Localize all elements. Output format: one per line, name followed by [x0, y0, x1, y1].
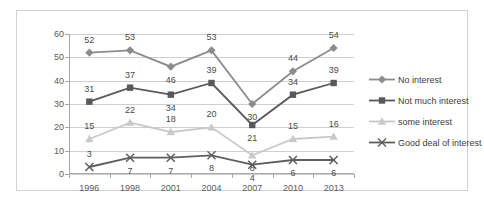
x-axis-tick-mark: [232, 174, 233, 178]
data-point-square: [168, 91, 174, 97]
x-axis-tick-mark: [69, 174, 70, 178]
data-point-square: [127, 84, 133, 90]
chart-container: 0102030405060 19961998200120042007201020…: [16, 10, 468, 191]
legend-item-label: No interest: [398, 75, 442, 85]
legend-marker-triangle-icon: [369, 116, 395, 127]
y-axis-tick-label: 20: [54, 122, 64, 132]
x-axis-tick-mark: [191, 174, 192, 178]
x-axis-tick-mark: [273, 174, 274, 178]
legend-marker-diamond-icon: [369, 74, 395, 85]
plot-area: 0102030405060 19961998200120042007201020…: [69, 34, 354, 174]
series-lines: [69, 34, 354, 174]
series-line: [89, 83, 333, 125]
x-axis-tick-label: 2013: [324, 183, 344, 193]
y-axis-tick-label: 0: [59, 169, 64, 179]
gridline: [69, 174, 354, 175]
series-line: [89, 48, 333, 104]
data-point-triangle: [126, 118, 134, 125]
y-axis-tick-label: 40: [54, 76, 64, 86]
x-axis-tick-mark: [313, 174, 314, 178]
y-axis-tick-label: 50: [54, 52, 64, 62]
y-axis-tick-label: 60: [54, 29, 64, 39]
x-axis-tick-label: 1996: [79, 183, 99, 193]
data-point-square: [330, 80, 336, 86]
x-axis-tick-mark: [150, 174, 151, 178]
x-axis-tick-label: 2001: [161, 183, 181, 193]
x-axis-tick-label: 1998: [120, 183, 140, 193]
legend-marker-x-icon: [369, 137, 395, 148]
data-point-square: [379, 97, 385, 103]
data-point-square: [86, 98, 92, 104]
legend-item[interactable]: some interest: [369, 111, 479, 132]
data-point-square: [208, 80, 214, 86]
data-point-diamond: [330, 44, 338, 52]
y-axis-tick-label: 30: [54, 99, 64, 109]
chart-legend: No interestNot much interestsome interes…: [369, 69, 479, 153]
legend-item[interactable]: No interest: [369, 69, 479, 90]
data-point-diamond: [378, 75, 386, 83]
legend-item-label: some interest: [398, 117, 452, 127]
x-axis-tick-mark: [110, 174, 111, 178]
legend-item-label: Good deal of interest: [398, 138, 482, 148]
legend-item-label: Not much interest: [398, 96, 469, 106]
x-axis-tick-mark: [354, 174, 355, 178]
legend-marker-square-icon: [369, 95, 395, 106]
legend-item[interactable]: Good deal of interest: [369, 132, 479, 153]
data-point-diamond: [167, 63, 175, 71]
x-axis-tick-label: 2007: [242, 183, 262, 193]
x-axis-tick-label: 2004: [201, 183, 221, 193]
data-point-square: [290, 91, 296, 97]
data-point-diamond: [126, 46, 134, 54]
legend-item[interactable]: Not much interest: [369, 90, 479, 111]
data-point-diamond: [85, 49, 93, 57]
data-point-square: [249, 122, 255, 128]
x-axis-tick-label: 2010: [283, 183, 303, 193]
y-axis-tick-label: 10: [54, 146, 64, 156]
